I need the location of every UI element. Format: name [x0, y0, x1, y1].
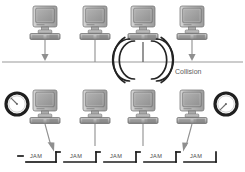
bottom-station-1: [30, 90, 60, 123]
top-station-4: [177, 6, 207, 39]
clock-icon-right: [215, 93, 237, 115]
jam-label: JAM: [30, 153, 42, 159]
bottom-drop-arrow-4: [182, 124, 192, 152]
collision-diagram: Collision: [0, 0, 245, 172]
jam-label: JAM: [70, 153, 82, 159]
top-station-2: [80, 6, 110, 39]
top-drop-arrow-4: [188, 40, 195, 61]
diagram-canvas: Collision: [0, 0, 245, 172]
bottom-drop-arrow-1: [45, 124, 54, 152]
jam-label: JAM: [190, 153, 202, 159]
collision-label: Collision: [175, 68, 202, 75]
clock-icon-left: [6, 93, 28, 115]
bottom-station-2: [80, 90, 110, 123]
jam-label: JAM: [110, 153, 122, 159]
bottom-station-4: [177, 90, 207, 123]
top-drop-arrow-1: [41, 40, 48, 61]
top-station-1: [30, 6, 60, 39]
bottom-station-3: [128, 90, 158, 123]
top-station-3: [128, 6, 158, 39]
jam-label: JAM: [150, 153, 162, 159]
